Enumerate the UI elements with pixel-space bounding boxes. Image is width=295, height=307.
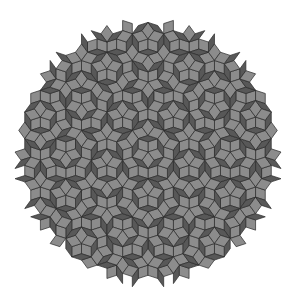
penrose-tiling-svg xyxy=(0,0,295,307)
penrose-tiling-figure: Penrose rhombus tiling xyxy=(0,0,295,307)
